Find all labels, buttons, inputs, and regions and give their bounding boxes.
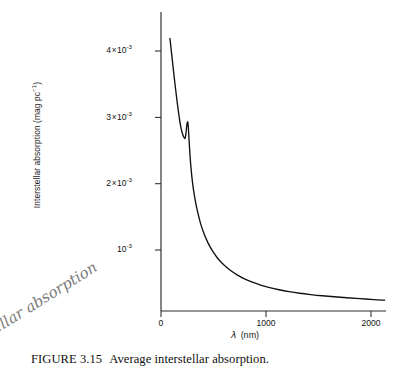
- y-axis-title-exponent: −1: [30, 85, 37, 92]
- x-axis-unit: (nm): [241, 330, 260, 340]
- y-tick-label-2e-3: 2×10-3: [60, 178, 132, 188]
- y-axis-title: Interstellar absorption (mag pc−1): [32, 45, 42, 245]
- x-axis-title: λ(nm): [231, 329, 259, 340]
- y-tick-label-1e-3: 10-3: [60, 244, 132, 254]
- absorption-curve: [170, 39, 385, 301]
- x-tick-label-2000: 2000: [351, 318, 391, 328]
- figure-number: FIGURE 3.15: [31, 352, 102, 366]
- figure-caption: FIGURE 3.15Average interstellar absorpti…: [31, 352, 269, 367]
- y-axis-title-text: Interstellar absorption (mag pc−1): [32, 82, 42, 208]
- y-tick-marks: [155, 51, 161, 250]
- figure-container: 4×10-3 3×10-3 2×10-3 10-3 0 1000 2000 In…: [0, 0, 397, 374]
- y-tick-exponent: -3: [126, 243, 132, 250]
- y-tick-exponent: -3: [126, 44, 132, 51]
- x-tick-label-0: 0: [141, 318, 181, 328]
- y-tick-exponent: -3: [126, 110, 132, 117]
- figure-caption-text: Average interstellar absorption.: [109, 352, 269, 366]
- y-tick-exponent: -3: [126, 176, 132, 183]
- y-tick-label-3e-3: 3×10-3: [60, 112, 132, 122]
- lambda-symbol: λ: [231, 329, 237, 340]
- x-tick-label-1000: 1000: [246, 318, 286, 328]
- x-tick-marks: [161, 311, 371, 317]
- y-tick-label-4e-3: 4×10-3: [60, 45, 132, 55]
